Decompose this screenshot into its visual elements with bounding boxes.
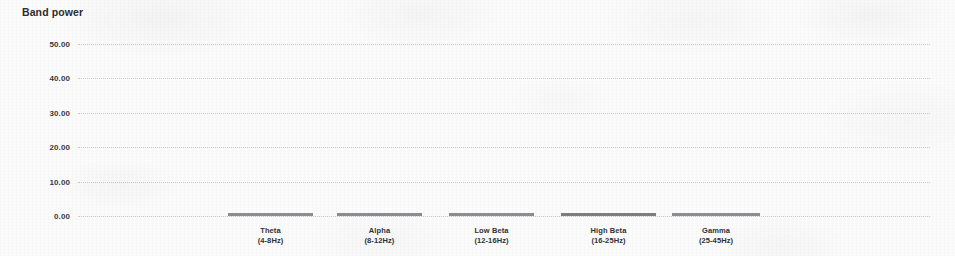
band-name-high-beta: High Beta xyxy=(561,226,656,236)
band-range-gamma: (25-45Hz) xyxy=(672,236,760,246)
y-axis-tick-0: 0.00 xyxy=(14,212,70,221)
gridline-20 xyxy=(78,147,930,148)
gridline-50 xyxy=(78,44,930,45)
x-axis-label-gamma: Gamma (25-45Hz) xyxy=(672,226,760,246)
gridline-30 xyxy=(78,113,930,114)
band-range-high-beta: (16-25Hz) xyxy=(561,236,656,246)
x-axis-label-low-beta: Low Beta (12-16Hz) xyxy=(449,226,534,246)
band-name-alpha: Alpha xyxy=(337,226,422,236)
page-title: Band power xyxy=(22,6,83,18)
band-name-low-beta: Low Beta xyxy=(449,226,534,236)
x-axis-label-alpha: Alpha (8-12Hz) xyxy=(337,226,422,246)
band-range-low-beta: (12-16Hz) xyxy=(449,236,534,246)
y-axis-tick-50: 50.00 xyxy=(14,40,70,49)
bar-alpha[interactable] xyxy=(337,213,422,216)
scanned-chart-page: Band power 50.00 40.00 30.00 20.00 10.00… xyxy=(0,0,955,256)
y-axis-tick-40: 40.00 xyxy=(14,74,70,83)
y-axis-tick-30: 30.00 xyxy=(14,109,70,118)
y-axis-tick-20: 20.00 xyxy=(14,143,70,152)
y-axis-tick-10: 10.00 xyxy=(14,178,70,187)
bar-gamma[interactable] xyxy=(672,213,760,216)
band-name-theta: Theta xyxy=(228,226,313,236)
gridline-40 xyxy=(78,78,930,79)
gridline-10 xyxy=(78,182,930,183)
x-axis-label-high-beta: High Beta (16-25Hz) xyxy=(561,226,656,246)
bar-high-beta[interactable] xyxy=(561,213,656,216)
band-range-alpha: (8-12Hz) xyxy=(337,236,422,246)
gridline-0 xyxy=(78,216,930,217)
band-name-gamma: Gamma xyxy=(672,226,760,236)
bar-low-beta[interactable] xyxy=(449,213,534,216)
bar-theta[interactable] xyxy=(228,213,313,216)
band-power-chart: 50.00 40.00 30.00 20.00 10.00 0.00 Theta… xyxy=(0,0,955,256)
x-axis-label-theta: Theta (4-8Hz) xyxy=(228,226,313,246)
band-range-theta: (4-8Hz) xyxy=(228,236,313,246)
